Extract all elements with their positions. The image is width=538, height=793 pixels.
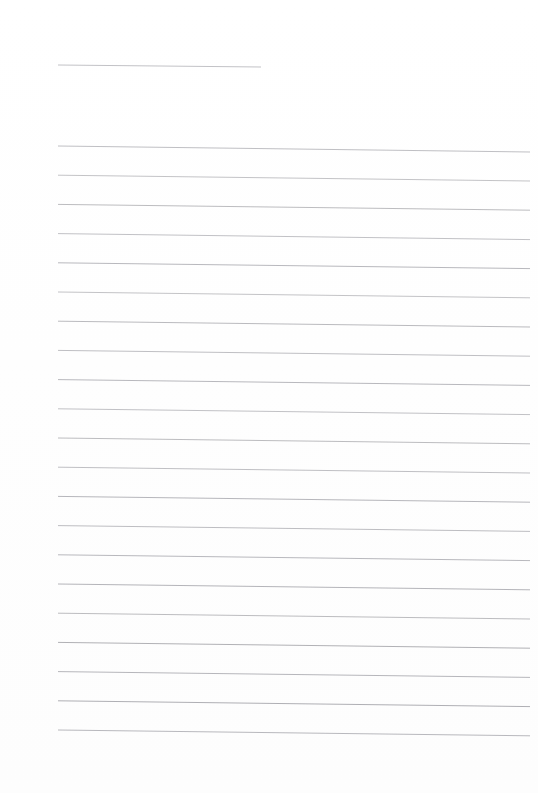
ruled-line [58,175,530,181]
ruled-line [58,292,530,298]
ruled-line [58,380,530,386]
ruled-lines-layer [0,0,538,793]
header-rule-group [58,65,261,67]
ruled-line [58,555,530,561]
rules-svg [0,0,538,793]
lined-paper-page [0,0,538,793]
ruled-line [58,350,530,356]
ruled-line [58,146,530,152]
ruled-line [58,584,530,590]
header-rule [58,65,261,67]
ruled-line [58,263,530,269]
ruled-line [58,613,530,619]
ruled-line [58,701,530,707]
ruled-line [58,526,530,532]
ruled-line [58,467,530,473]
ruled-line [58,234,530,240]
ruled-line [58,438,530,444]
ruled-lines-group [58,146,530,736]
ruled-line [58,321,530,327]
ruled-line [58,730,530,736]
ruled-line [58,672,530,678]
ruled-line [58,204,530,210]
ruled-line [58,409,530,415]
ruled-line [58,496,530,502]
ruled-line [58,642,530,648]
